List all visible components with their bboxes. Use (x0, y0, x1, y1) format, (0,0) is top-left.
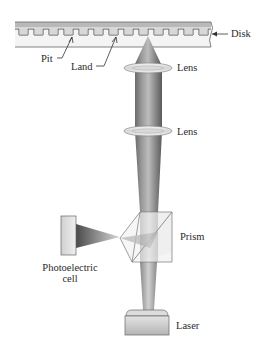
lens-upper (124, 63, 172, 73)
label-lens-upper: Lens (177, 62, 197, 73)
diagram-canvas (0, 0, 261, 352)
label-photoelectric-line2: cell (40, 273, 100, 284)
lens-lower (124, 126, 172, 136)
collimated-beam (135, 68, 162, 131)
photoelectric-cell (61, 216, 76, 255)
label-land: Land (71, 61, 93, 72)
label-disk: Disk (231, 28, 251, 39)
label-laser: Laser (176, 320, 199, 331)
label-photoelectric-line1: Photoelectric (40, 262, 100, 273)
prism (120, 212, 172, 262)
laser-beam (140, 262, 157, 310)
label-photoelectric-cell: Photoelectric cell (40, 262, 100, 284)
label-lens-lower: Lens (177, 126, 197, 137)
reflected-beam (76, 224, 120, 248)
laser (125, 310, 169, 335)
label-pit: Pit (41, 53, 53, 64)
label-prism: Prism (180, 231, 205, 242)
disk-pointer (212, 32, 228, 37)
tapered-beam (135, 131, 162, 212)
